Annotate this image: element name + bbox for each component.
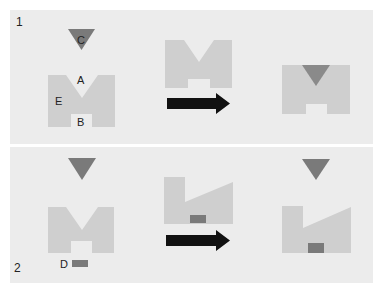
label-a: A	[77, 74, 85, 86]
arrow-right-icon	[167, 93, 230, 114]
m-body-initial-2	[48, 207, 114, 253]
block-fitted-result	[308, 243, 324, 253]
block-fitted-middle	[190, 215, 206, 223]
block-d	[72, 260, 88, 267]
label-e: E	[55, 95, 62, 107]
label-b: B	[77, 116, 84, 128]
triangle-top-result	[302, 159, 330, 180]
triangle-top	[68, 158, 96, 180]
label-d: D	[60, 258, 68, 270]
diagram-canvas: C A E B D	[0, 0, 383, 289]
label-c: C	[77, 34, 85, 46]
arrow-right-icon	[166, 230, 230, 251]
m-body-middle	[165, 40, 232, 88]
